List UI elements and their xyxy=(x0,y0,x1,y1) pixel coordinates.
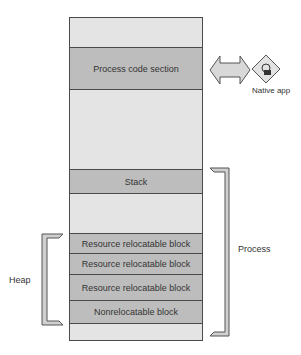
bidirectional-arrow-icon xyxy=(210,56,250,84)
native-app-label: Native app xyxy=(252,86,290,95)
process-bracket xyxy=(210,168,229,336)
heap-bracket xyxy=(42,234,63,325)
native-app-icon xyxy=(252,55,280,83)
process-label: Process xyxy=(238,244,271,254)
diagram-graphics xyxy=(0,0,301,355)
heap-label: Heap xyxy=(9,275,31,285)
